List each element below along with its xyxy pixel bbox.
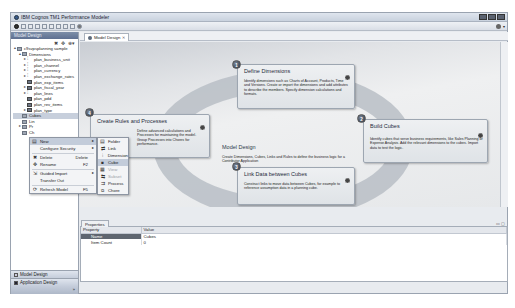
- undo-icon[interactable]: [70, 24, 75, 29]
- card-title: Create Rules and Processes: [97, 118, 205, 124]
- model-design-summary: Model Design Create Dimensions, Cubes, L…: [222, 144, 352, 164]
- property-name: Item Count: [81, 239, 141, 245]
- link-data-card[interactable]: Link Data between Cubes Construct links …: [237, 167, 355, 205]
- main-toolbar: ▾: [11, 22, 507, 31]
- configure-buttons[interactable]: »: [11, 286, 78, 294]
- menu-item-subset[interactable]: ⇆Subset: [98, 173, 128, 180]
- dimension-icon: [27, 92, 32, 96]
- summary-title: Model Design: [222, 144, 352, 150]
- menu-item-folder[interactable]: ▤Folder: [98, 138, 128, 145]
- menu-item-link[interactable]: ⇄Link: [98, 145, 128, 152]
- menu-item-label: Process: [108, 180, 124, 187]
- card-title: Link Data between Cubes: [244, 171, 350, 177]
- menu-item-delete[interactable]: ✖DeleteDelete: [30, 154, 96, 161]
- menu-item-transfer-out[interactable]: Transfer Out: [30, 177, 96, 184]
- menu-item-chore[interactable]: ⧉Chore: [98, 187, 128, 194]
- menu-item-guided-import[interactable]: ⇲Guided Import▸: [30, 170, 96, 177]
- menu-item-label: New: [40, 138, 49, 145]
- home-icon[interactable]: [14, 24, 19, 29]
- menu-item-label: Delete: [40, 154, 52, 161]
- rename-icon: ✥: [32, 162, 37, 167]
- menu-item-label: Folder: [108, 138, 120, 145]
- folder-icon: ▤: [100, 139, 105, 144]
- settings-gear-icon[interactable]: [77, 24, 82, 29]
- card-gear-icon[interactable]: [200, 125, 205, 130]
- menu-item-rename[interactable]: ✥RenameF2: [30, 161, 96, 168]
- menu-item-view[interactable]: ▦View: [98, 166, 128, 173]
- menu-shortcut: Delete: [76, 154, 88, 161]
- menu-shortcut: F2: [83, 161, 88, 168]
- minimize-button[interactable]: [479, 14, 487, 20]
- close-button[interactable]: [497, 14, 505, 20]
- paste-icon[interactable]: [63, 24, 68, 29]
- model-design-icon: [14, 273, 18, 277]
- help-dropdown-icon[interactable]: ▾: [503, 24, 505, 29]
- card-gear-icon[interactable]: [345, 75, 350, 80]
- card-description: Construct links to move data between Cub…: [244, 182, 350, 191]
- sync-icon[interactable]: ✥: [61, 40, 65, 46]
- view-menu-icon[interactable]: ⊕▾: [68, 40, 75, 46]
- save-icon[interactable]: [35, 24, 40, 29]
- cut-icon[interactable]: [49, 24, 54, 29]
- menu-item-label: Guided Import: [40, 170, 67, 177]
- folder-icon: [22, 120, 27, 124]
- editor-area: Model Design ✕ Define Dimensions Identif…: [80, 32, 508, 207]
- new-icon: ▤: [32, 139, 37, 144]
- step-badge: 2: [357, 114, 366, 123]
- build-cubes-card[interactable]: Build Cubes Identify cubes that serve bu…: [363, 119, 488, 163]
- card-description: Identify cubes that serve business requi…: [370, 137, 483, 150]
- open-icon[interactable]: [28, 24, 33, 29]
- menu-item-label: Refresh Model: [40, 186, 68, 193]
- menu-item-label: View: [108, 166, 117, 173]
- card-gear-icon[interactable]: [345, 178, 350, 183]
- application-design-icon: [14, 281, 18, 285]
- save-all-icon[interactable]: [42, 24, 47, 29]
- properties-panel: Properties ▭ ▢ Property Value Name Cubes…: [80, 226, 508, 282]
- window-title: IBM Cognos TM1 Performance Modeler: [21, 14, 109, 20]
- model-design-nav-button[interactable]: Model Design: [11, 270, 78, 278]
- panel-header: Model Design: [11, 32, 78, 39]
- card-gear-icon[interactable]: [478, 133, 483, 138]
- menu-item-cube[interactable]: ■Cube: [98, 159, 128, 166]
- panel-tools: ✖ ✥ ⊕▾: [11, 39, 78, 46]
- tab-properties[interactable]: Properties: [81, 220, 109, 227]
- refresh-model-icon: ⟳: [32, 187, 37, 192]
- canvas-scrollbar[interactable]: [500, 42, 508, 207]
- copy-icon[interactable]: [56, 24, 61, 29]
- define-dimensions-card[interactable]: Define Dimensions Identify dimensions su…: [237, 64, 355, 109]
- collapse-all-icon[interactable]: ✖: [54, 40, 58, 46]
- new-icon[interactable]: [21, 24, 26, 29]
- property-value[interactable]: 0: [141, 239, 507, 245]
- tree-item[interactable]: Ch: [13, 130, 78, 136]
- help-icon[interactable]: [496, 24, 501, 29]
- link-icon: ⇄: [100, 146, 105, 151]
- folder-icon: [22, 114, 27, 118]
- dimension-icon: [27, 97, 32, 101]
- transfer-out-icon: [32, 178, 37, 183]
- card-description: Identify dimensions such as Charts of Ac…: [244, 79, 350, 96]
- tab-model-design[interactable]: Model Design ✕: [84, 33, 129, 41]
- nav-label: Application Design: [20, 279, 57, 287]
- table-row[interactable]: Item Count 0: [81, 239, 507, 245]
- menu-item-new[interactable]: ▤New▸: [30, 138, 96, 145]
- dimension-icon: ⫶: [100, 153, 105, 158]
- nav-label: Model Design: [20, 271, 48, 279]
- dimension-icon: [27, 103, 32, 107]
- menu-item-refresh-model[interactable]: ⟳Refresh ModelF5: [30, 186, 96, 193]
- menu-item-dimension[interactable]: ⫶Dimension: [98, 152, 128, 159]
- maximize-button[interactable]: [488, 14, 496, 20]
- tab-close-icon[interactable]: ✕: [122, 35, 125, 40]
- delete-icon: ✖: [32, 155, 37, 160]
- menu-item-label: Cube: [108, 159, 118, 166]
- view-icon: ▦: [100, 167, 105, 172]
- menu-item-process[interactable]: ⇉Process: [98, 180, 128, 187]
- submenu-arrow-icon: ▸: [92, 170, 94, 177]
- application-design-nav-button[interactable]: Application Design: [11, 278, 78, 286]
- step-badge: 4: [85, 108, 94, 117]
- step-badge: 1: [232, 60, 241, 69]
- menu-item-label: Dimension: [108, 152, 128, 159]
- window-controls: [479, 14, 505, 20]
- menu-item-configure-security[interactable]: Configure Security▸: [30, 145, 96, 152]
- editor-tab-bar: Model Design ✕: [80, 32, 508, 41]
- properties-view-controls[interactable]: ▭ ▢: [496, 221, 505, 226]
